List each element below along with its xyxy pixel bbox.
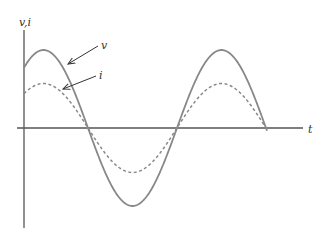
y-axis-label: v,i — [19, 17, 31, 28]
i-label: i — [99, 70, 103, 81]
waveform-diagram — [0, 0, 328, 240]
v-label: v — [101, 40, 107, 51]
v-arrow — [68, 46, 98, 64]
x-axis-label: t — [308, 124, 312, 135]
